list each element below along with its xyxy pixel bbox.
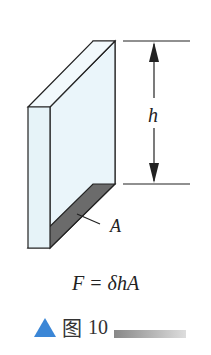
triangle-icon bbox=[34, 318, 56, 337]
caption-number: 10 bbox=[88, 316, 108, 339]
figure-caption: 图 10 bbox=[34, 313, 186, 342]
slab-diagram: h A bbox=[0, 0, 211, 260]
area-label: A bbox=[109, 216, 122, 236]
height-label: h bbox=[148, 104, 158, 126]
formula: F = δhA bbox=[0, 272, 211, 295]
caption-char: 图 bbox=[62, 313, 82, 342]
caption-underline bbox=[114, 330, 186, 338]
